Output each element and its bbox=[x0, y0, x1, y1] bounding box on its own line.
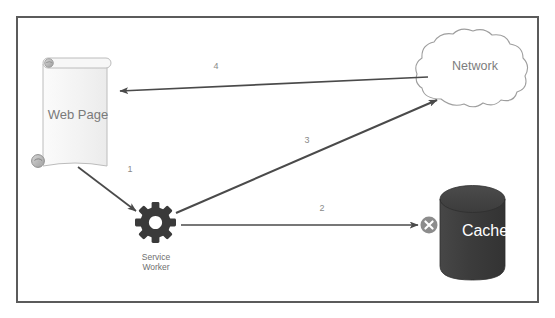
connector-3-serviceworker-to-network bbox=[176, 100, 437, 213]
web-page-label: Web Page bbox=[36, 107, 120, 122]
gear-icon bbox=[135, 202, 176, 243]
service-worker-label-line1: Service bbox=[117, 252, 195, 262]
diagram-canvas: Web Page Network Cache Service Worker 1 … bbox=[0, 0, 555, 318]
connector-4-network-to-webpage bbox=[120, 77, 428, 91]
network-label: Network bbox=[435, 59, 515, 74]
edge-label-1: 1 bbox=[123, 164, 137, 174]
service-worker-label: Service Worker bbox=[117, 252, 195, 272]
cache-cylinder-top bbox=[440, 186, 505, 213]
edge-label-4: 4 bbox=[209, 61, 223, 71]
node-service-worker bbox=[135, 202, 176, 243]
diagram-graphics bbox=[0, 0, 555, 318]
x-circle-icon bbox=[421, 217, 438, 234]
edge-label-3: 3 bbox=[300, 135, 314, 145]
web-page-curl-top bbox=[45, 59, 54, 68]
edge-label-2: 2 bbox=[315, 203, 329, 213]
service-worker-label-line2: Worker bbox=[117, 262, 195, 272]
cache-label: Cache bbox=[443, 222, 527, 241]
